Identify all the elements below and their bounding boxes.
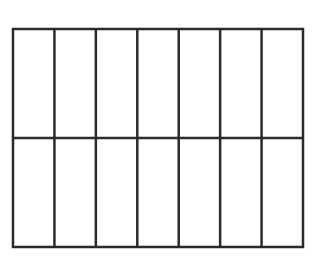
grid-cell xyxy=(96,29,137,138)
grid-cell xyxy=(13,138,54,247)
grid-cell xyxy=(13,29,54,138)
grid-cell xyxy=(220,29,261,138)
grid-cell xyxy=(96,138,137,247)
grid-cell xyxy=(54,29,95,138)
grid-cell xyxy=(137,138,178,247)
partitioned-rectangle xyxy=(0,0,324,257)
diagram-canvas xyxy=(0,0,324,257)
grid-cell xyxy=(262,29,303,138)
grid-cell xyxy=(137,29,178,138)
grid-cell xyxy=(262,138,303,247)
grid-cell xyxy=(179,29,220,138)
grid-cell xyxy=(179,138,220,247)
grid-cell xyxy=(54,138,95,247)
grid-cell xyxy=(220,138,261,247)
